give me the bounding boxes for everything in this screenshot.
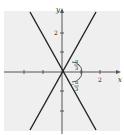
- y-axis-arrow-icon: [60, 8, 64, 13]
- x-tick-label-2: 2: [98, 76, 102, 83]
- x-axis-label: x: [118, 76, 122, 84]
- svg-text:−: −: [70, 81, 74, 87]
- polar-lines-diagram: y x 2 2 π 3 − π 3: [0, 0, 124, 135]
- svg-text:3: 3: [75, 86, 78, 92]
- y-tick-label-2: 2: [54, 29, 58, 36]
- svg-text:3: 3: [75, 65, 78, 71]
